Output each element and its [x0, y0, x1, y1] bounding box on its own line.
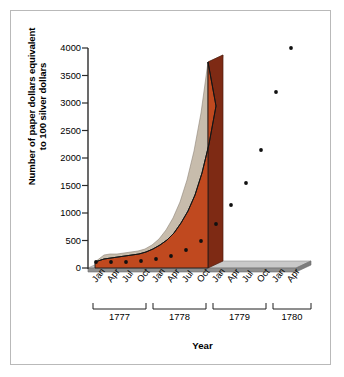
- year-label-1780: 1780: [273, 311, 311, 322]
- plot-area: Number of paper dollars equivalent to 10…: [0, 0, 344, 377]
- year-label-1779: 1779: [213, 311, 266, 322]
- x-axis-title: Year: [85, 340, 320, 351]
- year-label-1777: 1777: [93, 311, 146, 322]
- year-brackets: [93, 303, 311, 309]
- y-axis-ticks: [82, 48, 88, 268]
- year-label-1778: 1778: [153, 311, 206, 322]
- chart-figure: Number of paper dollars equivalent to 10…: [0, 0, 344, 377]
